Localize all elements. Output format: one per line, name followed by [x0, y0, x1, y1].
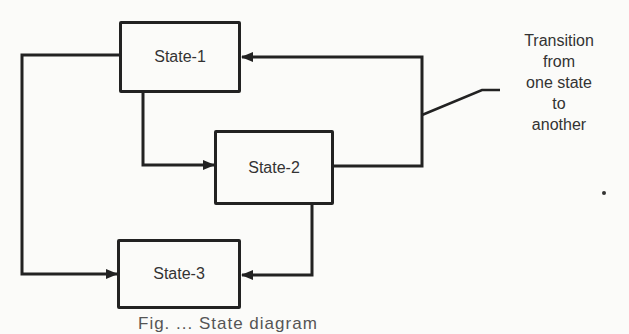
annotation-line-1: Transition: [504, 30, 614, 51]
annotation-line-4: to: [504, 93, 614, 114]
stray-dot: [602, 191, 606, 195]
transition-state2-to-state3: [242, 204, 312, 275]
annotation-line-5: another: [504, 114, 614, 135]
figure-caption: Fig. ... State diagram: [138, 314, 318, 334]
state-2-label: State-2: [248, 159, 300, 177]
annotation-leader-line: [422, 90, 500, 115]
state-2-box: State-2: [214, 130, 334, 205]
state-1-box: State-1: [119, 21, 241, 93]
transition-annotation: Transition from one state to another: [504, 30, 614, 135]
transition-state1-to-state3: [22, 55, 120, 274]
state-1-label: State-1: [154, 48, 206, 66]
state-3-label: State-3: [153, 265, 205, 283]
state-3-box: State-3: [117, 239, 241, 309]
transition-state1-to-state2: [143, 92, 214, 165]
annotation-line-3: one state: [504, 72, 614, 93]
annotation-line-2: from: [504, 51, 614, 72]
